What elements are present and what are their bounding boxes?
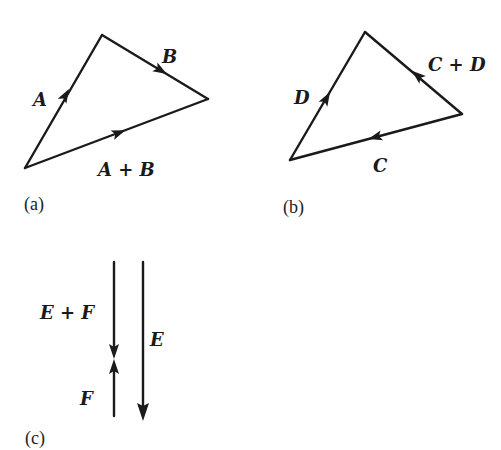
arrowhead-a-plus-b-icon — [111, 125, 128, 139]
label-f: F — [79, 388, 94, 409]
label-a: A — [31, 89, 47, 110]
vector-b — [102, 35, 208, 99]
label-e-plus-f: E + F — [39, 302, 95, 323]
label-c-plus-d: C + D — [428, 54, 486, 75]
caption-a: (a) — [24, 194, 44, 215]
label-a-plus-b: A + B — [96, 159, 155, 180]
arrowhead-d-icon — [319, 90, 335, 107]
label-b: B — [161, 46, 177, 67]
arrowhead-c-icon — [367, 131, 383, 144]
panel-c: E + F F E (c) — [25, 262, 164, 449]
panel-a: A B A + B (a) — [24, 35, 208, 215]
label-d: D — [293, 87, 310, 108]
panel-b: D C + D C (b) — [283, 32, 486, 218]
caption-b: (b) — [283, 197, 304, 218]
vector-addition-diagram: A B A + B (a) D C + D C (b) E + F F E (c… — [0, 0, 501, 450]
label-c: C — [373, 155, 388, 176]
caption-c: (c) — [25, 428, 45, 449]
label-e: E — [149, 329, 164, 350]
